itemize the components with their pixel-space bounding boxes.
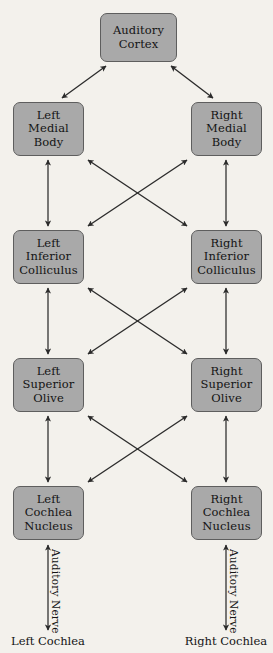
label-right-auditory-nerve: Auditory Nerve xyxy=(228,549,240,634)
node-right-inferior-colliculus[interactable]: Right Inferior Colliculus xyxy=(191,230,262,284)
node-label-line: Left xyxy=(37,365,61,379)
node-label-line: Right xyxy=(210,493,242,507)
node-label-line: Superior xyxy=(23,378,75,392)
node-label-line: Nucleus xyxy=(202,520,250,534)
node-left-inferior-colliculus[interactable]: Left Inferior Colliculus xyxy=(13,230,84,284)
node-label-line: Right xyxy=(210,109,242,123)
node-label-line: Medial xyxy=(206,122,247,136)
node-auditory-cortex[interactable]: Auditory Cortex xyxy=(100,13,177,62)
label-left-cochlea: Left Cochlea xyxy=(0,634,96,648)
node-right-superior-olive[interactable]: Right Superior Olive xyxy=(191,358,262,412)
node-label-line: Body xyxy=(34,136,64,150)
node-right-medial-body[interactable]: Right Medial Body xyxy=(191,102,262,156)
edge-right-medial-to-cortex xyxy=(171,66,213,98)
edge-left-medial-to-cortex xyxy=(62,66,106,98)
label-left-auditory-nerve: Auditory Nerve xyxy=(50,549,62,634)
node-label-line: Cochlea xyxy=(203,506,251,520)
node-label-line: Left xyxy=(37,109,61,123)
node-label-line: Superior xyxy=(201,378,253,392)
node-label-line: Olive xyxy=(33,392,64,406)
node-left-superior-olive[interactable]: Left Superior Olive xyxy=(13,358,84,412)
node-label-line: Left xyxy=(37,493,61,507)
node-label-line: Colliculus xyxy=(197,264,256,278)
node-label-line: Nucleus xyxy=(24,520,72,534)
node-label-line: Cortex xyxy=(119,38,159,52)
node-left-medial-body[interactable]: Left Medial Body xyxy=(13,102,84,156)
auditory-pathway-diagram: Auditory Cortex Left Medial Body Right M… xyxy=(0,0,273,653)
node-right-cochlea-nucleus[interactable]: Right Cochlea Nucleus xyxy=(191,486,262,540)
node-label-line: Right xyxy=(210,237,242,251)
node-label-line: Right xyxy=(210,365,242,379)
node-label-line: Medial xyxy=(28,122,69,136)
node-label-line: Cochlea xyxy=(25,506,73,520)
node-label-line: Body xyxy=(212,136,242,150)
node-label-line: Left xyxy=(37,237,61,251)
node-label-line: Auditory xyxy=(113,24,164,38)
node-label-line: Inferior xyxy=(204,250,249,264)
node-label-line: Olive xyxy=(211,392,242,406)
label-right-cochlea: Right Cochlea xyxy=(178,634,273,648)
node-left-cochlea-nucleus[interactable]: Left Cochlea Nucleus xyxy=(13,486,84,540)
node-label-line: Colliculus xyxy=(19,264,78,278)
node-label-line: Inferior xyxy=(26,250,71,264)
